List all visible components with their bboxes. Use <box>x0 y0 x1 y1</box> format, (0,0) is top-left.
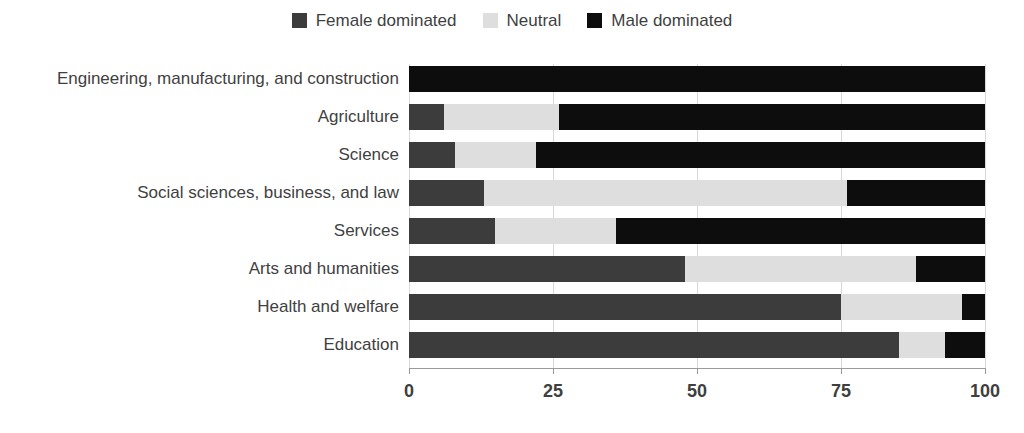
bar-segment[interactable] <box>409 332 899 358</box>
x-axis-tick-labels: 0255075100 <box>409 381 985 409</box>
category-label: Agriculture <box>0 104 399 130</box>
bar-segment[interactable] <box>962 294 985 320</box>
bar-track <box>409 294 985 320</box>
legend-item-female-dominated[interactable]: Female dominated <box>292 12 457 29</box>
bar-segment[interactable] <box>455 142 536 168</box>
bar-segment[interactable] <box>536 142 985 168</box>
x-tick-label-50: 50 <box>687 381 707 402</box>
tick-mark-50 <box>697 368 698 374</box>
bar-segment[interactable] <box>685 256 915 282</box>
legend-swatch-female-dominated <box>292 13 307 28</box>
x-tick-label-25: 25 <box>543 381 563 402</box>
category-label: Social sciences, business, and law <box>0 180 399 206</box>
bar-segment[interactable] <box>616 218 985 244</box>
legend-label-neutral: Neutral <box>507 12 562 29</box>
bar-segment[interactable] <box>409 180 484 206</box>
bar-segment[interactable] <box>409 104 444 130</box>
bar-track <box>409 256 985 282</box>
legend-item-male-dominated[interactable]: Male dominated <box>587 12 732 29</box>
legend-label-female-dominated: Female dominated <box>316 12 457 29</box>
bar-track <box>409 332 985 358</box>
category-label: Engineering, manufacturing, and construc… <box>0 66 399 92</box>
tick-mark-25 <box>553 368 554 374</box>
x-tick-label-100: 100 <box>970 381 1000 402</box>
bar-track <box>409 104 985 130</box>
bar-segment[interactable] <box>945 332 985 358</box>
bar-segment[interactable] <box>409 142 455 168</box>
category-label: Health and welfare <box>0 294 399 320</box>
legend-swatch-male-dominated <box>587 13 602 28</box>
legend-item-neutral[interactable]: Neutral <box>483 12 562 29</box>
legend-label-male-dominated: Male dominated <box>611 12 732 29</box>
bar-segment[interactable] <box>495 218 616 244</box>
gridline-100 <box>985 64 986 368</box>
bar-row[interactable] <box>409 104 985 130</box>
bar-row[interactable] <box>409 218 985 244</box>
bar-track <box>409 180 985 206</box>
bar-track <box>409 142 985 168</box>
bar-track <box>409 218 985 244</box>
bar-row[interactable] <box>409 294 985 320</box>
bar-segment[interactable] <box>409 218 495 244</box>
tick-mark-100 <box>985 368 986 374</box>
bar-segment[interactable] <box>916 256 985 282</box>
category-axis-labels: Engineering, manufacturing, and construc… <box>0 64 399 368</box>
bar-segment[interactable] <box>409 66 985 92</box>
category-label: Services <box>0 218 399 244</box>
tick-mark-0 <box>409 368 410 374</box>
bar-row[interactable] <box>409 332 985 358</box>
bar-segment[interactable] <box>841 294 962 320</box>
x-tick-label-75: 75 <box>831 381 851 402</box>
bar-segment[interactable] <box>899 332 945 358</box>
stacked-bar-chart: Female dominated Neutral Male dominated … <box>0 0 1024 433</box>
bar-track <box>409 66 985 92</box>
chart-legend: Female dominated Neutral Male dominated <box>0 12 1024 29</box>
category-label: Science <box>0 142 399 168</box>
bar-segment[interactable] <box>559 104 985 130</box>
bar-row[interactable] <box>409 180 985 206</box>
plot-area <box>409 64 985 368</box>
x-tick-label-0: 0 <box>404 381 414 402</box>
bar-segment[interactable] <box>484 180 847 206</box>
legend-swatch-neutral <box>483 13 498 28</box>
bar-row[interactable] <box>409 142 985 168</box>
category-label: Education <box>0 332 399 358</box>
bar-row[interactable] <box>409 256 985 282</box>
bar-segment[interactable] <box>409 256 685 282</box>
bar-segment[interactable] <box>409 294 841 320</box>
tick-mark-75 <box>841 368 842 374</box>
category-label: Arts and humanities <box>0 256 399 282</box>
bar-segment[interactable] <box>847 180 985 206</box>
bar-segment[interactable] <box>444 104 559 130</box>
bar-row[interactable] <box>409 66 985 92</box>
